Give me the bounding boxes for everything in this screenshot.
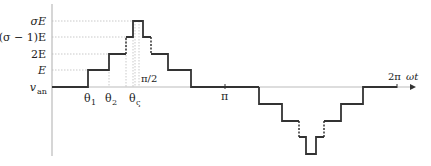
- negative-half-waveform: [259, 87, 299, 121]
- label-e: E: [37, 64, 46, 77]
- label-2e: 2E: [31, 48, 46, 61]
- label-sigma-minus-1-e: (σ − 1)E: [0, 31, 46, 44]
- rising-waveform: [324, 87, 397, 121]
- label-omega-t: ωt: [406, 71, 419, 82]
- label-van: v: [30, 81, 37, 94]
- label-theta1: θ: [84, 92, 91, 105]
- label-theta2: θ: [105, 92, 112, 105]
- peak-waveform: [126, 21, 151, 37]
- label-pi: π: [221, 90, 228, 103]
- staircase-waveform-diagram: σE (σ − 1)E 2E E v an θ 1 θ 2 θ ς π/2 π …: [0, 0, 431, 166]
- label-pi-half: π/2: [141, 73, 157, 84]
- label-theta-sigma-sub: ς: [136, 98, 141, 107]
- label-theta-sigma: θ: [129, 92, 136, 105]
- positive-half-waveform: [52, 54, 126, 87]
- label-theta1-sub: 1: [91, 98, 96, 107]
- label-theta2-sub: 2: [112, 98, 117, 107]
- level-guides: [52, 21, 135, 70]
- label-sigma-e: σE: [30, 15, 46, 28]
- label-van-sub: an: [37, 87, 47, 96]
- waveform-svg: σE (σ − 1)E 2E E v an θ 1 θ 2 θ ς π/2 π …: [0, 0, 431, 166]
- label-2pi: 2π: [388, 71, 401, 82]
- trough-waveform: [299, 137, 324, 154]
- x-axis-arrow-icon: [410, 84, 416, 90]
- falling-waveform: [151, 54, 259, 87]
